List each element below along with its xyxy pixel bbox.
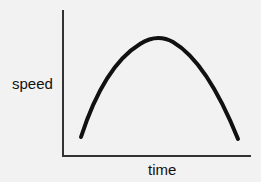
y-axis-label: speed bbox=[12, 75, 53, 92]
speed-curve bbox=[81, 38, 238, 139]
speed-time-chart: speed time bbox=[0, 0, 261, 182]
x-axis-label: time bbox=[148, 161, 176, 178]
